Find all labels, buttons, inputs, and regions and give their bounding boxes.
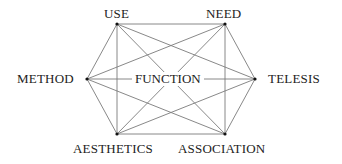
edge-method-aesthetics (87, 79, 117, 134)
node-dot-use (115, 22, 118, 25)
node-label-method: METHOD (17, 72, 74, 86)
node-label-association: ASSOCIATION (178, 142, 265, 156)
node-dot-association (223, 132, 226, 135)
edge-method-association (87, 79, 225, 134)
edge-use-method (87, 24, 117, 79)
node-dot-aesthetics (115, 132, 118, 135)
node-label-need: NEED (206, 7, 241, 21)
center-label-function: FUNCTION (132, 72, 204, 86)
node-dot-telesis (253, 77, 256, 80)
edge-need-telesis (225, 24, 255, 79)
node-dot-method (85, 77, 88, 80)
node-label-aesthetics: AESTHETICS (73, 142, 153, 156)
node-dot-need (223, 22, 226, 25)
edge-telesis-aesthetics (117, 79, 255, 134)
node-label-telesis: TELESIS (268, 72, 320, 86)
edge-telesis-association (225, 79, 255, 134)
node-label-use: USE (104, 7, 129, 21)
function-complex-diagram: USE NEED METHOD TELESIS AESTHETICS ASSOC… (0, 0, 342, 164)
